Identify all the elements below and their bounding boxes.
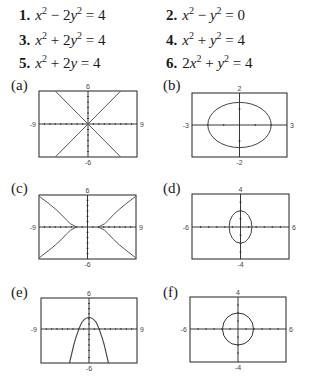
graph-f: 4 -4 -6 6	[0, 0, 310, 381]
xmin-label: -6	[181, 326, 187, 333]
xmax-label: 6	[289, 326, 293, 333]
ymax-label: 4	[236, 289, 240, 296]
ymin-label: -4	[235, 364, 241, 371]
